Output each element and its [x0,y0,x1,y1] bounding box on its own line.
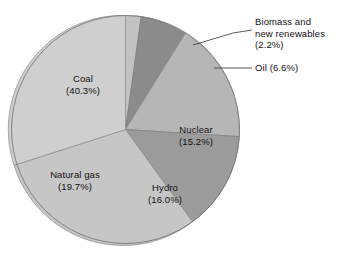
leader-line-biomass [193,30,252,45]
slice-label-nuclear: Nuclear (15.2%) [156,124,236,147]
slice-label-coal-name: Coal [45,73,121,85]
slice-label-coal: Coal (40.3%) [45,73,121,96]
slice-label-natural-gas: Natural gas (19.7%) [27,169,123,192]
pie-chart: Coal (40.3%) Natural gas (19.7%) Hydro (… [0,0,343,254]
callout-label-oil: Oil (6.6%) [255,62,341,74]
slice-label-hydro-name: Hydro [126,182,204,194]
callout-label-biomass-line1: Biomass and [255,16,341,28]
slice-label-coal-value: (40.3%) [45,85,121,97]
callout-label-biomass: Biomass and new renewables (2.2%) [255,16,341,51]
slice-label-nuclear-name: Nuclear [156,124,236,136]
slice-label-nuclear-value: (15.2%) [156,136,236,148]
slice-label-natural-gas-name: Natural gas [27,169,123,181]
slice-label-natural-gas-value: (19.7%) [27,181,123,193]
slice-label-hydro-value: (16.0%) [126,194,204,206]
callout-label-oil-text: Oil (6.6%) [255,62,341,74]
slice-label-hydro: Hydro (16.0%) [126,182,204,205]
callout-label-biomass-value: (2.2%) [255,39,341,51]
callout-label-biomass-line2: new renewables [255,28,341,40]
